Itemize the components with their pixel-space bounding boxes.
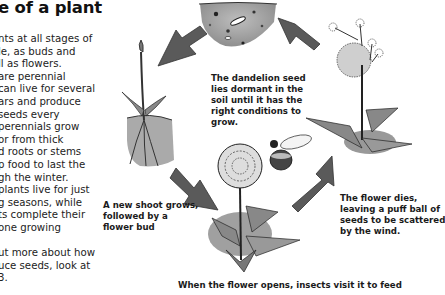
caption-seed-dormant: The dandelion seed lies dormant in the s… (211, 73, 306, 128)
caption-line: soil until it has the (211, 95, 306, 106)
body-line: are perennial (0, 71, 138, 84)
soil-seed-illustration (199, 3, 277, 47)
body-line: d roots or stems (0, 146, 138, 159)
body-line: ut more about how (0, 247, 138, 260)
flowering-dandelion-illustration (208, 144, 300, 272)
caption-new-shoot: A new shoot grows, followed by a flower … (103, 200, 198, 233)
body-line: uce seeds, look at (0, 260, 138, 273)
caption-line: seeds to be scattered (340, 215, 445, 226)
body-line: nts at all stages of (0, 33, 138, 46)
body-line: gh the winter. (0, 172, 138, 185)
seed-head-illustration (306, 19, 412, 154)
body-line: ars and produce (0, 96, 138, 109)
caption-line: lies dormant in the (211, 84, 306, 95)
caption-flower-dies: The flower dies, leaving a puff ball of … (340, 193, 445, 237)
caption-line: The dandelion seed (211, 73, 306, 84)
arrow-icon (278, 18, 320, 50)
caption-line: A new shoot grows, (103, 200, 198, 211)
body-line: or from thick (0, 134, 138, 147)
arrow-icon (158, 26, 207, 66)
bee-icon (270, 132, 313, 170)
caption-line: followed by a (103, 211, 198, 222)
paragraph-gap (0, 235, 138, 248)
page-title: e of a plant (0, 0, 102, 17)
body-line: plants live for just (0, 184, 138, 197)
caption-line: leaving a puff ball of (340, 204, 445, 215)
body-line: le, as buds and (0, 46, 138, 59)
body-line: p food to last the (0, 159, 138, 172)
body-line: 3. (0, 272, 138, 285)
caption-line: grow. (211, 117, 306, 128)
caption-line: When the flower opens, insects visit it … (178, 280, 402, 291)
caption-flower-opens: When the flower opens, insects visit it … (178, 280, 402, 291)
caption-line: right conditions to (211, 106, 306, 117)
caption-line: flower bud (103, 222, 198, 233)
body-text: nts at all stages of le, as buds and ll … (0, 33, 138, 285)
body-line: seeds every (0, 109, 138, 122)
body-line: perennials grow (0, 121, 138, 134)
body-line: ll as flowers. (0, 58, 138, 71)
caption-line: The flower dies, (340, 193, 445, 204)
body-line: can live for several (0, 83, 138, 96)
caption-line: by the wind. (340, 226, 445, 237)
arrow-icon (292, 156, 334, 212)
